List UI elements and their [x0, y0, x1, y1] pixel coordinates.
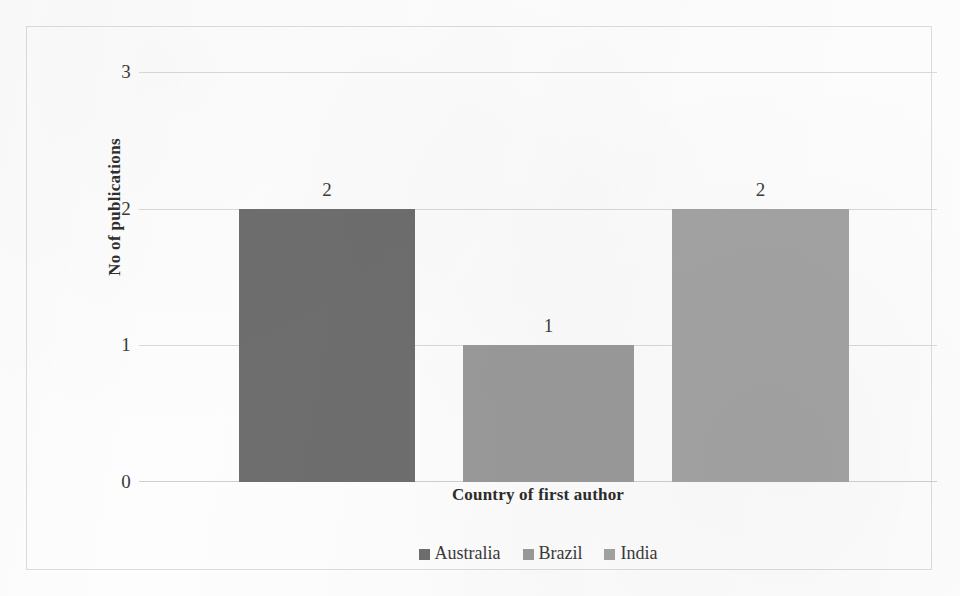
bar-value-label-australia: 2: [239, 179, 415, 201]
bar-value-label-india: 2: [672, 179, 849, 201]
bar-india[interactable]: 2: [672, 209, 849, 482]
legend-swatch-icon-australia: [419, 549, 430, 560]
y-tick-label-1: 1: [85, 334, 131, 356]
plot-area: 2 1 2: [139, 72, 937, 482]
legend-swatch-icon-india: [604, 549, 615, 560]
chart-legend: Australia Brazil India: [139, 543, 937, 564]
legend-label-india: India: [620, 543, 657, 564]
legend-item-brazil[interactable]: Brazil: [523, 543, 583, 564]
bar-brazil[interactable]: 1: [463, 345, 634, 482]
y-tick-label-3: 3: [85, 61, 131, 83]
legend-label-brazil: Brazil: [539, 543, 583, 564]
bar-value-label-brazil: 1: [463, 315, 634, 337]
legend-item-australia[interactable]: Australia: [419, 543, 501, 564]
legend-swatch-icon-brazil: [523, 549, 534, 560]
bar-australia[interactable]: 2: [239, 209, 415, 482]
gridline-3: [139, 72, 937, 73]
legend-item-india[interactable]: India: [604, 543, 657, 564]
y-axis-tick-labels: 3 2 1 0: [73, 72, 131, 482]
y-tick-label-2: 2: [85, 198, 131, 220]
chart-frame: No of publications 3 2 1 0 2 1 2 Country…: [26, 26, 932, 570]
y-tick-label-0: 0: [85, 471, 131, 493]
legend-label-australia: Australia: [435, 543, 501, 564]
x-axis-title: Country of first author: [139, 485, 937, 505]
